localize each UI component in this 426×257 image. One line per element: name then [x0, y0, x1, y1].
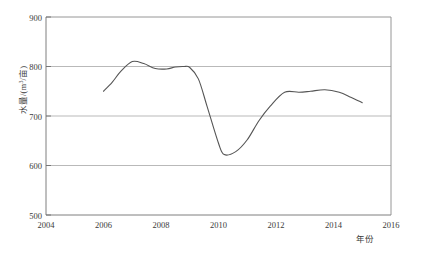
x-tick-label-2010: 2010 — [210, 220, 227, 230]
y-tick-label-500: 500 — [29, 211, 42, 221]
x-axis-title: 年份 — [356, 232, 374, 244]
y-tick-label-700: 700 — [29, 112, 42, 122]
x-tick-labels: 2004 2006 2008 2010 2012 2014 2016 — [38, 220, 400, 230]
chart-figure: 900 800 700 600 500 2004 2006 2008 2010 … — [0, 0, 426, 257]
y-tick-label-900: 900 — [29, 13, 42, 23]
x-tick-label-2004: 2004 — [38, 220, 56, 230]
x-tick-label-2008: 2008 — [153, 220, 170, 230]
y-tick-label-800: 800 — [29, 62, 42, 72]
y-tick-label-600: 600 — [29, 161, 42, 171]
series-line-water-volume — [104, 61, 363, 155]
y-tick-marks — [46, 17, 51, 215]
x-tick-label-2012: 2012 — [268, 220, 285, 230]
y-tick-labels: 900 800 700 600 500 — [29, 13, 42, 221]
x-tick-label-2006: 2006 — [95, 220, 112, 230]
chart-plot-area: 900 800 700 600 500 2004 2006 2008 2010 … — [0, 0, 426, 257]
x-tick-label-2014: 2014 — [325, 220, 343, 230]
x-tick-label-2016: 2016 — [383, 220, 400, 230]
